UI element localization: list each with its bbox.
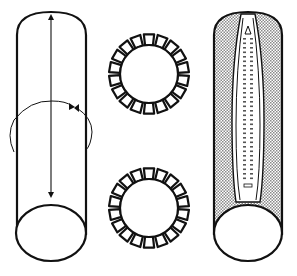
zipper-tooth — [250, 101, 253, 103]
zipper-tooth — [250, 169, 253, 171]
gear-tooth — [144, 168, 154, 179]
zipper-tooth — [243, 38, 246, 40]
zipper-tooth — [243, 133, 246, 135]
zipper-tooth — [250, 88, 253, 90]
zipper-tooth — [250, 61, 253, 63]
zipper-tooth — [250, 142, 253, 144]
zipper-tooth — [243, 92, 246, 94]
gear-tooth — [144, 34, 154, 45]
zipper-tooth — [250, 133, 253, 135]
zipper-tooth — [243, 137, 246, 139]
diagram-svg — [0, 0, 297, 276]
zipper-tooth — [243, 115, 246, 117]
zipper-tooth — [250, 56, 253, 58]
gear-ring-top — [109, 34, 189, 113]
zipper-tooth — [243, 61, 246, 63]
zipper-tooth — [250, 106, 253, 108]
gear-ring-bottom — [109, 168, 189, 247]
zipper-tooth — [250, 43, 253, 45]
zipper-tooth — [243, 160, 246, 162]
left-cylinder — [10, 12, 92, 261]
zipper-tooth — [250, 178, 253, 180]
zipper-tooth — [243, 169, 246, 171]
gear-inner-circle — [120, 45, 178, 103]
zipper-tooth — [243, 65, 246, 67]
zipper-tooth — [250, 151, 253, 153]
left-cylinder-base — [16, 205, 86, 261]
zipper-tooth — [243, 106, 246, 108]
zipper-tooth — [243, 128, 246, 130]
zipper-tooth — [243, 83, 246, 85]
zipper-tooth — [243, 52, 246, 54]
zipper-tooth — [250, 74, 253, 76]
gear-tooth — [144, 103, 154, 114]
zipper-tooth — [243, 74, 246, 76]
zipper-tooth — [243, 146, 246, 148]
right-cylinder-base — [214, 205, 282, 261]
zipper-tooth — [243, 155, 246, 157]
zipper-tooth — [250, 146, 253, 148]
zipper-tooth — [243, 164, 246, 166]
zipper-tooth — [243, 119, 246, 121]
zipper-tooth — [243, 88, 246, 90]
zipper-tooth — [250, 38, 253, 40]
zipper-tooth — [250, 83, 253, 85]
zipper-tooth — [250, 92, 253, 94]
zipper-tooth — [250, 110, 253, 112]
zipper-tooth — [243, 97, 246, 99]
zipper-tooth — [243, 79, 246, 81]
right-cylinder — [214, 12, 282, 261]
zipper-tooth — [250, 97, 253, 99]
zipper-tooth — [243, 142, 246, 144]
zipper-tooth — [243, 178, 246, 180]
zipper-tooth — [243, 47, 246, 49]
zipper-tooth — [250, 137, 253, 139]
zipper-tooth — [243, 43, 246, 45]
zipper-tooth — [243, 110, 246, 112]
zipper-tooth — [250, 155, 253, 157]
zipper-tooth — [250, 119, 253, 121]
zipper-tooth — [250, 173, 253, 175]
zipper-tooth — [250, 128, 253, 130]
zipper-tooth — [250, 160, 253, 162]
zipper-tooth — [243, 151, 246, 153]
gear-tooth — [144, 237, 154, 248]
zipper-tooth — [250, 79, 253, 81]
zipper-tooth — [250, 70, 253, 72]
zipper-tooth — [250, 52, 253, 54]
zipper-stop — [244, 184, 252, 187]
zipper-tooth — [250, 65, 253, 67]
zipper-tooth — [250, 115, 253, 117]
zipper-tooth — [243, 173, 246, 175]
gear-inner-circle — [120, 179, 178, 237]
zipper-tooth — [243, 124, 246, 126]
zipper-tooth — [243, 70, 246, 72]
zipper-tooth — [243, 101, 246, 103]
zipper-tooth — [243, 56, 246, 58]
zipper-tooth — [250, 124, 253, 126]
diagram-canvas — [0, 0, 297, 276]
zipper-tooth — [250, 164, 253, 166]
zipper-tooth — [250, 47, 253, 49]
